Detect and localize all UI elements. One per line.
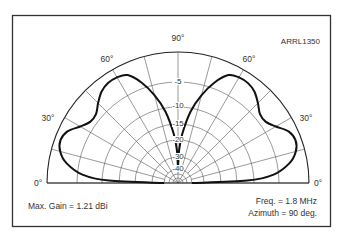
angle-tick-label: 60° xyxy=(243,54,256,64)
polar-plot-svg: 0°30°60°90°60°30°0° -5-10-15-20-30-40 AR… xyxy=(0,0,344,240)
polar-plot-figure: 0°30°60°90°60°30°0° -5-10-15-20-30-40 AR… xyxy=(0,0,344,240)
radial-tick-label: -5 xyxy=(174,77,182,86)
frequency-label: Freq. = 1.8 MHz xyxy=(256,196,317,206)
radial-tick-label: -40 xyxy=(172,164,184,173)
radial-tick-label: -20 xyxy=(172,135,184,144)
angle-tick-label: 0° xyxy=(314,178,322,188)
angle-tick-label: 90° xyxy=(172,33,185,43)
figure-id-label: ARRL1350 xyxy=(281,37,321,46)
radial-tick-label: -30 xyxy=(172,152,184,161)
angle-tick-label: 30° xyxy=(300,113,313,123)
max-gain-label: Max. Gain = 1.21 dBi xyxy=(28,201,108,211)
angle-tick-label: 0° xyxy=(34,178,42,188)
angle-tick-label: 30° xyxy=(42,113,55,123)
radial-tick-label: -10 xyxy=(172,101,184,110)
radial-tick-label: -15 xyxy=(172,119,184,128)
angle-tick-label: 60° xyxy=(101,54,114,64)
azimuth-label: Azimuth = 90 deg. xyxy=(248,208,317,218)
